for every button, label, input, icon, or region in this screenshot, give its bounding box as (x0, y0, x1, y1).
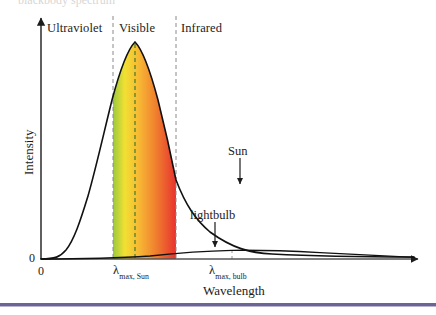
band-label-visible: Visible (119, 22, 155, 35)
curve-label-lightbulb: lightbulb (190, 209, 235, 222)
x-tick-lambda-max-bulb: λmax, bulb (209, 264, 246, 279)
y-axis-zero-label: 0 (29, 252, 35, 264)
x-tick-lambda-max-sun: λmax, Sun (113, 264, 149, 279)
lambda-subscript-sun: max, Sun (119, 272, 148, 281)
band-label-infrared: Infrared (181, 22, 222, 35)
x-axis-title: Wavelength (203, 284, 265, 297)
y-axis-title: Intensity (22, 130, 35, 176)
x-axis-origin-label: 0 (38, 265, 44, 277)
band-label-ultraviolet: Ultraviolet (47, 22, 102, 35)
page-footer-rule (0, 303, 436, 306)
curve-label-sun: Sun (228, 145, 247, 158)
visible-spectrum-band (41, 42, 176, 259)
page-footer-hairline (0, 306, 436, 307)
blackbody-spectrum-figure: blackbody spectrum (0, 0, 436, 315)
lambda-subscript-bulb: max, bulb (215, 272, 246, 281)
lightbulb-curve (41, 250, 414, 259)
